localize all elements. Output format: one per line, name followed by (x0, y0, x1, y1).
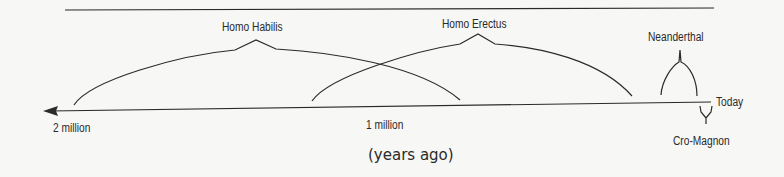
label-2-million: 2 million (53, 121, 90, 135)
label-homo-habilis: Homo Habilis (222, 20, 283, 34)
label-neanderthal: Neanderthal (648, 30, 704, 44)
arrow-left-icon (43, 106, 58, 116)
label-cro-magnon: Cro-Magnon (673, 134, 730, 148)
label-1-million: 1 million (366, 118, 403, 132)
homo-erectus-brace (312, 34, 632, 101)
label-homo-erectus: Homo Erectus (442, 17, 507, 31)
axis-unit-label: (years ago) (368, 146, 454, 164)
time-axis (50, 102, 711, 111)
label-today: Today (716, 95, 743, 109)
homo-habilis-brace (74, 40, 460, 105)
neanderthal-brace (661, 50, 697, 96)
cro-magnon-brace (700, 106, 712, 124)
top-rule (65, 8, 714, 10)
